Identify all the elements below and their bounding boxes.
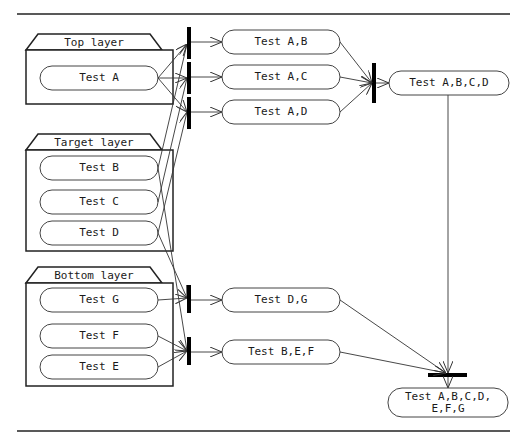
test-abcd-label: Test A,B,C,D bbox=[389, 71, 509, 95]
sync-bar-ad bbox=[187, 97, 191, 129]
test-ad-label: Test A,D bbox=[222, 100, 340, 124]
test-all-label: Test A,B,C,D, E,F,G bbox=[388, 388, 508, 417]
test-c-label: Test C bbox=[40, 190, 158, 214]
target-layer-title: Target layer bbox=[38, 134, 150, 150]
sync-bar-final bbox=[428, 373, 467, 377]
test-ac-label: Test A,C bbox=[222, 65, 340, 89]
test-bef-label: Test B,E,F bbox=[222, 340, 340, 364]
bottom-layer-title: Bottom layer bbox=[38, 267, 150, 283]
sync-bar-bef bbox=[187, 337, 191, 365]
sync-bar-ac bbox=[187, 62, 191, 94]
pair-connectors bbox=[191, 42, 222, 352]
test-f-label: Test F bbox=[40, 324, 158, 348]
sync-bar-ab bbox=[187, 27, 191, 59]
activity-diagram: Top layer Target layer Bottom layer Test… bbox=[0, 0, 527, 443]
test-dg-label: Test D,G bbox=[222, 288, 340, 312]
sync-bar-dg bbox=[187, 285, 191, 313]
test-d-label: Test D bbox=[40, 221, 158, 245]
test-g-label: Test G bbox=[40, 288, 158, 312]
sync-bar-abcd bbox=[372, 63, 376, 103]
test-e-label: Test E bbox=[40, 355, 158, 379]
test-ab-label: Test A,B bbox=[222, 30, 340, 54]
test-b-label: Test B bbox=[40, 156, 158, 180]
test-a-label: Test A bbox=[40, 66, 158, 90]
top-layer-title: Top layer bbox=[38, 34, 150, 50]
